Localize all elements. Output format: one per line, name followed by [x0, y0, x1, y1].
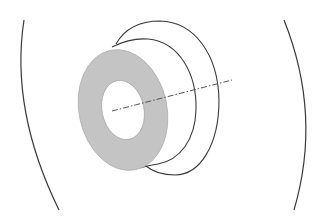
ring-diagram: [0, 0, 329, 224]
diagram-canvas: [0, 0, 329, 224]
